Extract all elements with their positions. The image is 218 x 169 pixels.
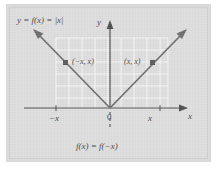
point-label-left: (−x, x) xyxy=(72,58,94,66)
point-marker-right xyxy=(150,60,155,65)
y-axis-label: y xyxy=(97,18,101,27)
point-label-right: (x, x) xyxy=(124,58,140,66)
x-axis-label: x xyxy=(188,112,192,121)
function-equation-label: y = f(x) = |x| xyxy=(17,16,64,25)
grid-lines xyxy=(56,38,168,108)
x-tick-label-negative: −x xyxy=(49,114,59,123)
point-marker-left xyxy=(63,60,68,65)
origin-label: 0 xyxy=(107,113,112,122)
x-tick-label-positive: x xyxy=(148,114,152,123)
figure-caption: f(x) = f(−x) xyxy=(76,142,118,151)
absolute-value-function-figure: y = f(x) = |x| y x −x x 0 (−x, x) (x, x)… xyxy=(0,0,218,169)
x-axis xyxy=(24,105,188,112)
